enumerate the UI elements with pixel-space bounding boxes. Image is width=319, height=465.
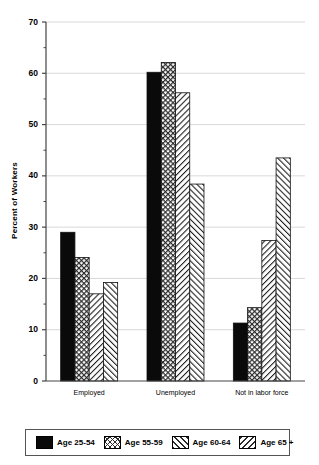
- bar: [61, 232, 75, 381]
- bar: [176, 93, 190, 381]
- y-tick-label: 10: [16, 324, 38, 334]
- legend-label: Age 65 +: [260, 438, 293, 447]
- legend-swatch-icon: [172, 436, 189, 449]
- bar: [190, 184, 204, 381]
- y-tick-label: 60: [16, 68, 38, 78]
- y-tick-label: 20: [16, 273, 38, 283]
- y-tick-label: 50: [16, 119, 38, 129]
- legend-item: Age 25-54: [36, 436, 95, 449]
- bar-chart: Percent of Workers EmployedUnemployedNot…: [0, 0, 319, 465]
- bar: [147, 72, 161, 381]
- bar: [276, 158, 290, 381]
- bar: [262, 240, 276, 381]
- bar: [103, 283, 117, 381]
- plot-area: [0, 0, 319, 420]
- legend-item: Age 60-64: [172, 436, 231, 449]
- y-tick-label: 30: [16, 222, 38, 232]
- legend-item: Age 55-59: [104, 436, 163, 449]
- bar: [75, 257, 89, 381]
- bar: [233, 323, 247, 381]
- bars-layer: [61, 63, 291, 381]
- x-tick-label: Unemployed: [132, 389, 218, 396]
- y-tick-label: 40: [16, 170, 38, 180]
- legend-item: Age 65 +: [239, 436, 293, 449]
- x-tick-label: Not in labor force: [219, 389, 305, 396]
- legend-label: Age 55-59: [125, 438, 163, 447]
- bar: [161, 63, 175, 381]
- y-tick-label: 0: [16, 376, 38, 386]
- bar: [248, 308, 262, 381]
- legend-label: Age 25-54: [57, 438, 95, 447]
- legend-swatch-icon: [239, 436, 256, 449]
- x-tick-label: Employed: [46, 389, 132, 396]
- bar: [89, 294, 103, 381]
- y-tick-label: 70: [16, 17, 38, 27]
- legend-swatch-icon: [104, 436, 121, 449]
- legend-label: Age 60-64: [193, 438, 231, 447]
- legend-swatch-icon: [36, 436, 53, 449]
- chart-legend: Age 25-54Age 55-59Age 60-64Age 65 +: [25, 429, 290, 456]
